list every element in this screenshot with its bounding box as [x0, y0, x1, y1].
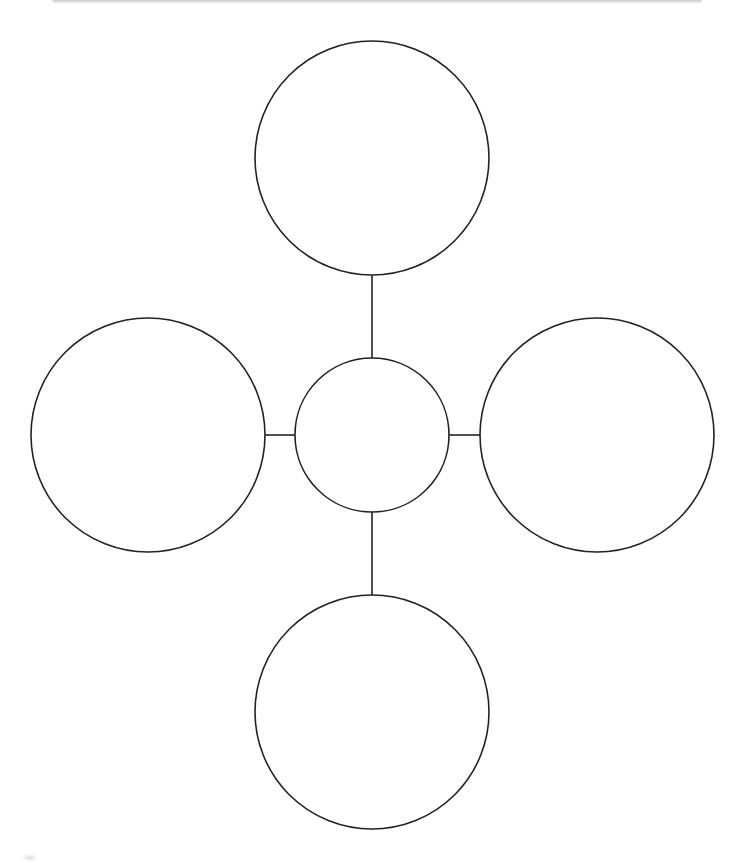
- diagram-nodes: [31, 41, 714, 829]
- outer-node-bottom: [255, 595, 489, 829]
- cluster-diagram: [0, 0, 744, 862]
- outer-node-top: [255, 41, 489, 275]
- outer-node-left: [31, 318, 265, 552]
- outer-node-right: [480, 318, 714, 552]
- center-node: [295, 358, 449, 512]
- page-corner-mark: [22, 854, 38, 862]
